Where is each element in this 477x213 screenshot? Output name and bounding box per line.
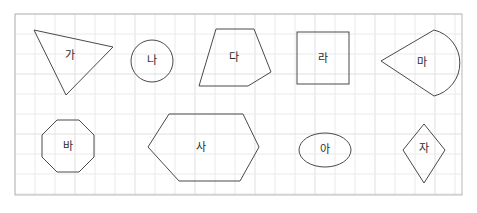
shapes-diagram: 가나다라마바사아자 [0, 0, 477, 213]
grid-background [15, 14, 462, 195]
shape-바[interactable]: 바 [42, 120, 94, 172]
shape-label: 아 [320, 143, 330, 156]
shape-아[interactable]: 아 [299, 133, 351, 167]
shape-label: 바 [63, 140, 73, 153]
shape-사[interactable]: 사 [148, 114, 259, 181]
shape-row: 가나다라마 [34, 29, 460, 96]
shape-outline-triangle [34, 30, 113, 95]
shape-label: 자 [419, 142, 429, 155]
shape-label: 사 [196, 141, 206, 154]
shape-collection: 가나다라마바사아자 [34, 29, 460, 183]
shape-label: 마 [417, 56, 427, 69]
shape-row: 바사아자 [42, 114, 445, 183]
shape-label: 가 [65, 49, 75, 62]
shape-나[interactable]: 나 [131, 40, 173, 82]
worksheet-canvas: 가나다라마바사아자 [0, 0, 477, 213]
shape-마[interactable]: 마 [381, 30, 460, 96]
shape-가[interactable]: 가 [34, 30, 113, 95]
shape-라[interactable]: 라 [297, 32, 349, 84]
shape-label: 라 [318, 52, 328, 65]
shape-label: 다 [229, 51, 239, 64]
shape-label: 나 [147, 54, 157, 67]
